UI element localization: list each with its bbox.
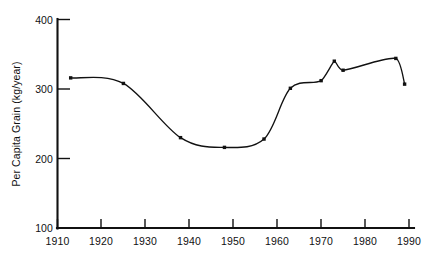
data-point <box>341 69 344 72</box>
x-tick-label-1950: 1950 <box>221 235 245 247</box>
data-point <box>403 82 406 85</box>
x-tick-label-1990: 1990 <box>397 235 421 247</box>
data-point <box>223 146 226 149</box>
y-axis-tick-labels: 400 300 200 100 <box>35 14 53 235</box>
x-tick-label-1960: 1960 <box>265 235 289 247</box>
y-tick-label-100: 100 <box>35 222 53 234</box>
x-tick-label-1920: 1920 <box>89 235 113 247</box>
x-tick-label-1940: 1940 <box>177 235 201 247</box>
y-axis-title: Per Capita Grain (kg/year) <box>10 61 22 186</box>
data-point <box>319 79 322 82</box>
data-series-markers <box>69 57 406 149</box>
x-tick-label-1980: 1980 <box>353 235 377 247</box>
y-tick-label-200: 200 <box>35 153 53 165</box>
x-tick-label-1910: 1910 <box>46 235 70 247</box>
data-point <box>122 82 125 85</box>
y-tick-label-300: 300 <box>35 83 53 95</box>
data-point <box>289 87 292 90</box>
x-axis-tick-labels: 1910 1920 1930 1940 1950 1960 1970 1980 … <box>46 235 421 247</box>
y-axis-ticks <box>57 20 70 229</box>
data-point <box>394 57 397 60</box>
data-point <box>179 136 182 139</box>
chart-container: 400 300 200 100 1910 1920 1930 1940 1950… <box>0 0 432 267</box>
data-point <box>69 76 72 79</box>
data-point <box>262 137 265 140</box>
data-series-line <box>71 58 405 147</box>
x-tick-label-1930: 1930 <box>133 235 157 247</box>
line-chart: 400 300 200 100 1910 1920 1930 1940 1950… <box>0 0 432 267</box>
data-point <box>333 60 336 63</box>
x-axis-ticks <box>58 219 410 228</box>
x-tick-label-1970: 1970 <box>309 235 333 247</box>
y-tick-label-400: 400 <box>35 14 53 26</box>
